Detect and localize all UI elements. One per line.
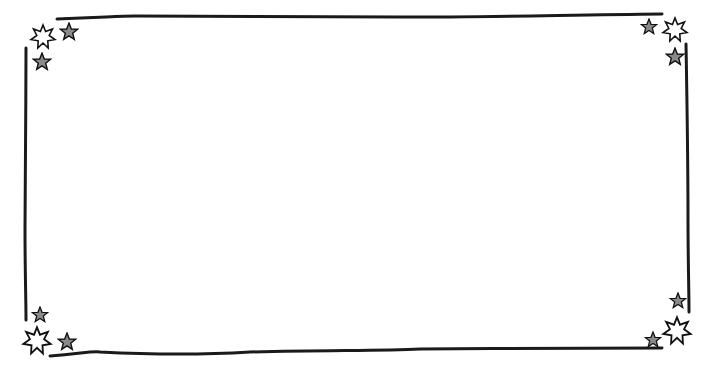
frame-interior bbox=[40, 30, 675, 340]
top-border-line bbox=[57, 14, 662, 19]
left-border-line bbox=[25, 48, 26, 320]
right-border-line bbox=[686, 44, 689, 312]
bottom-border-line bbox=[50, 348, 662, 356]
